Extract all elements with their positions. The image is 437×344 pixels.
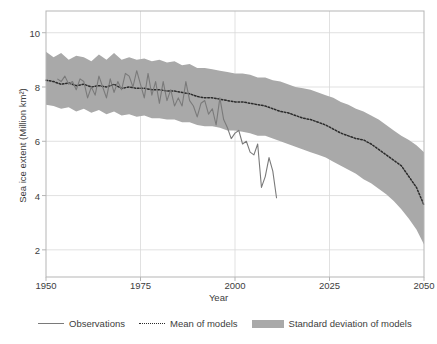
- y-tick-label: 2: [18, 244, 40, 255]
- y-tick-label: 10: [18, 27, 40, 38]
- legend-label-mean-of-models: Mean of models: [170, 318, 238, 329]
- x-tick-label: 1975: [130, 280, 151, 291]
- legend-item-std-deviation: Standard deviation of models: [252, 318, 412, 329]
- band-swatch-icon: [252, 320, 284, 328]
- solid-line-icon: [38, 323, 64, 324]
- legend-item-mean-of-models: Mean of models: [139, 318, 238, 329]
- x-axis-title: Year: [0, 292, 437, 303]
- x-tick-label: 2025: [319, 280, 340, 291]
- legend-item-observations: Observations: [38, 318, 125, 329]
- legend-label-std-deviation: Standard deviation of models: [289, 318, 412, 329]
- x-tick-label: 2000: [224, 280, 245, 291]
- x-tick-label: 1950: [35, 280, 56, 291]
- chart-legend: Observations Mean of models Standard dev…: [38, 318, 412, 329]
- dotted-line-icon: [139, 323, 165, 324]
- x-tick-label: 2050: [413, 280, 434, 291]
- y-axis-title: Sea ice extent (Million km²): [17, 76, 28, 216]
- legend-label-observations: Observations: [69, 318, 125, 329]
- sea-ice-extent-chart: 19501975200020252050 246810 Sea ice exte…: [0, 0, 437, 344]
